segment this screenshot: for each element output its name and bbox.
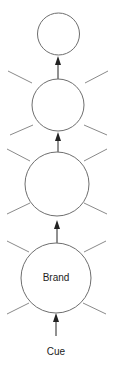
- arrowhead-icon: [53, 313, 59, 322]
- node-3: [32, 79, 84, 131]
- brand-label: Brand: [26, 272, 86, 284]
- node-2: [25, 152, 89, 216]
- arrowhead-icon: [55, 56, 61, 65]
- arrowhead-icon: [54, 220, 60, 229]
- arrowhead-icon: [55, 132, 61, 141]
- node-4: [38, 13, 80, 55]
- cue-label: Cue: [26, 346, 86, 358]
- diagram-canvas: [0, 0, 117, 370]
